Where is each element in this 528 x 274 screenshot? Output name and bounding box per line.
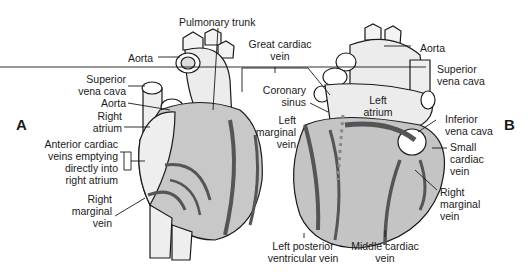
- label-right-marginal-vein-b: Rightmarginalvein: [440, 186, 480, 222]
- label-superior-vena-cava-a: Superiorvena cava: [76, 73, 126, 97]
- label-left-marginal-vein: Leftmarginalvein: [250, 114, 296, 150]
- label-aorta-b: Aorta: [420, 42, 445, 54]
- label-small-cardiac-vein: Smallcardiacvein: [450, 141, 484, 177]
- label-middle-cardiac-vein: Middle cardiacvein: [340, 240, 430, 264]
- label-great-cardiac-vein: Great cardiacvein: [240, 38, 320, 62]
- label-right-marginal-vein-a: Rightmarginalvein: [60, 193, 112, 229]
- label-coronary-sinus: Coronarysinus: [250, 84, 306, 108]
- panel-label-b: B: [504, 116, 515, 133]
- label-inferior-vena-cava: Inferiorvena cava: [445, 113, 493, 137]
- label-anterior-cardiac-veins: Anterior cardiacveins emptying directly …: [18, 138, 118, 186]
- label-pulmonary-trunk: Pulmonary trunk: [179, 16, 255, 28]
- label-superior-vena-cava-b: Superiorvena cava: [437, 63, 485, 87]
- label-aorta-a-top: Aorta: [128, 52, 153, 64]
- heart-anterior-view: [139, 29, 263, 260]
- label-right-atrium: Rightatrium: [76, 110, 122, 134]
- label-left-posterior-ventricular-vein: Left posteriorventricular vein: [262, 240, 344, 264]
- label-aorta-a-low: Aorta: [76, 97, 126, 109]
- label-left-atrium: Leftatrium: [360, 94, 396, 118]
- panel-label-a: A: [16, 116, 27, 133]
